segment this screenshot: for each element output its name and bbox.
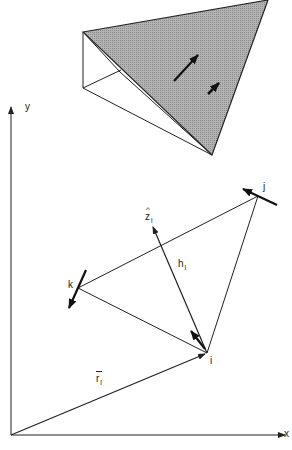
element-triangle [78,196,258,353]
normal-vector-z [153,227,207,353]
height-symbol: h [178,258,184,269]
height-label: hl [178,259,186,269]
x-axis-label: x [284,429,289,439]
vector-at-j [243,189,277,205]
element-geometry-diagram [0,0,292,450]
position-vector-label: rl [96,374,102,384]
position-subscript: l [100,379,102,386]
vertex-label-k: k [68,280,73,290]
edge-i-j [207,196,258,353]
vertex-label-i: i [210,356,212,366]
normal-subscript: l [151,217,153,224]
normal-vector-label: ^zl [145,212,153,222]
position-vector-r [11,354,205,435]
height-subscript: l [185,264,187,271]
bar-accent [96,371,102,372]
hat-accent: ^ [146,206,150,214]
position-symbol: r [96,373,99,384]
vertex-label-j: j [263,182,265,192]
edge-k-j [78,196,258,288]
y-axis-label: y [25,102,30,112]
edge-k-i [78,288,207,353]
inset-prism-element [83,0,268,155]
